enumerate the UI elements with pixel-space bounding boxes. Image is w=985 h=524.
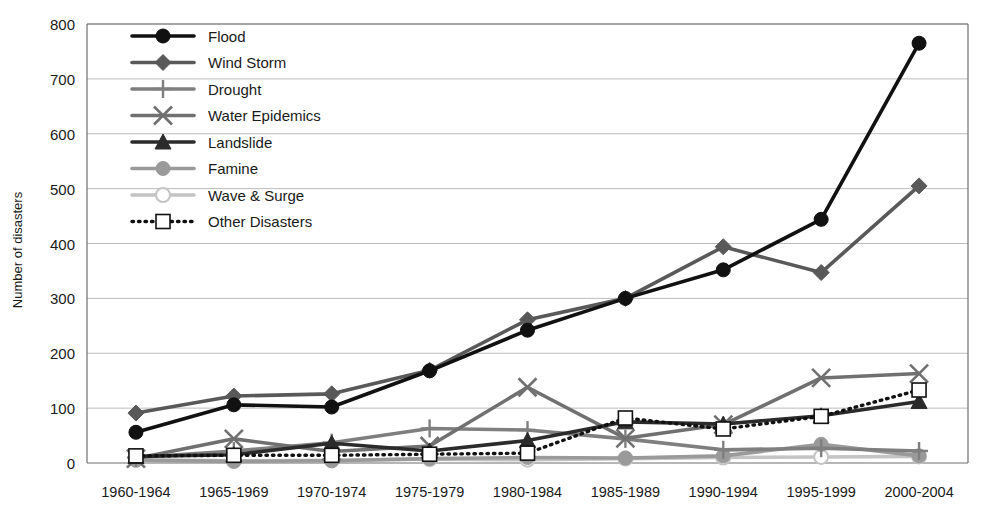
y-axis-tick-labels: 0100200300400500600700800 bbox=[50, 16, 75, 472]
legend-marker-circle-icon bbox=[156, 162, 170, 176]
y-tick-label: 300 bbox=[50, 290, 75, 307]
legend-item-wave-surge[interactable]: Wave & Surge bbox=[132, 187, 304, 204]
data-point bbox=[423, 447, 437, 461]
data-point bbox=[521, 323, 535, 337]
legend-label: Famine bbox=[208, 160, 258, 177]
legend-label: Other Disasters bbox=[208, 213, 312, 230]
data-point bbox=[325, 448, 339, 462]
data-point bbox=[814, 212, 828, 226]
data-point bbox=[814, 409, 828, 423]
y-tick-label: 100 bbox=[50, 400, 75, 417]
chart-container: 0100200300400500600700800 1960-19641965-… bbox=[0, 0, 985, 524]
legend-label: Landslide bbox=[208, 134, 272, 151]
data-point bbox=[521, 446, 535, 460]
data-point bbox=[129, 425, 143, 439]
x-axis-tick-labels: 1960-19641965-19691970-19741975-19791980… bbox=[101, 484, 953, 500]
y-tick-label: 200 bbox=[50, 345, 75, 362]
data-point bbox=[618, 411, 632, 425]
x-tick-label: 1980-1984 bbox=[493, 484, 562, 500]
y-tick-label: 500 bbox=[50, 181, 75, 198]
x-tick-label: 1970-1974 bbox=[297, 484, 366, 500]
data-point bbox=[912, 36, 926, 50]
x-tick-label: 1975-1979 bbox=[395, 484, 464, 500]
data-point bbox=[618, 451, 632, 465]
x-tick-label: 1995-1999 bbox=[786, 484, 855, 500]
x-tick-label: 1960-1964 bbox=[101, 484, 170, 500]
data-point bbox=[227, 448, 241, 462]
legend-label: Water Epidemics bbox=[208, 107, 321, 124]
legend-label: Wave & Surge bbox=[208, 187, 304, 204]
data-point bbox=[912, 383, 926, 397]
legend-label: Flood bbox=[208, 28, 246, 45]
y-axis-title: Number of disasters bbox=[10, 191, 25, 308]
x-tick-label: 1965-1969 bbox=[199, 484, 268, 500]
disasters-line-chart: 0100200300400500600700800 1960-19641965-… bbox=[0, 0, 985, 524]
data-point bbox=[716, 263, 730, 277]
y-tick-label: 600 bbox=[50, 126, 75, 143]
legend-label: Drought bbox=[208, 81, 262, 98]
x-tick-label: 1990-1994 bbox=[689, 484, 758, 500]
y-tick-label: 400 bbox=[50, 236, 75, 253]
legend-item-other-disasters[interactable]: Other Disasters bbox=[132, 213, 312, 230]
data-point bbox=[325, 400, 339, 414]
legend-marker-open-square-icon bbox=[156, 215, 170, 229]
data-point bbox=[716, 422, 730, 436]
legend-marker-circle-icon bbox=[156, 29, 170, 43]
y-tick-label: 700 bbox=[50, 71, 75, 88]
x-tick-label: 2000-2004 bbox=[884, 484, 953, 500]
y-tick-label: 0 bbox=[67, 455, 75, 472]
data-point bbox=[129, 449, 143, 463]
x-tick-label: 1985-1989 bbox=[591, 484, 660, 500]
data-point bbox=[227, 398, 241, 412]
legend-marker-open-circle-icon bbox=[156, 188, 170, 202]
y-tick-label: 800 bbox=[50, 16, 75, 33]
legend-label: Wind Storm bbox=[208, 54, 286, 71]
data-point bbox=[618, 291, 632, 305]
data-point bbox=[423, 364, 437, 378]
